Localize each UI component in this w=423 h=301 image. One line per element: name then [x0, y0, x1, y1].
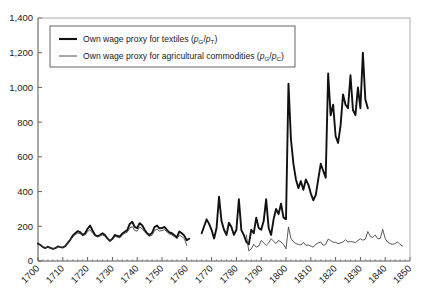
- y-tick-label: 400: [17, 186, 33, 197]
- y-tick-label: 200: [17, 221, 33, 232]
- y-tick-label: 800: [17, 117, 33, 128]
- chart-figure: 02004006008001,0001,2001,400 17001710172…: [0, 0, 423, 301]
- y-tick-label: 600: [17, 151, 33, 162]
- legend-label-textiles: Own wage proxy for textiles (pG/pT): [83, 34, 217, 45]
- y-tick-label: 1,400: [9, 12, 33, 23]
- chart-legend: Own wage proxy for textiles (pG/pT) Own …: [50, 26, 295, 67]
- y-tick-label: 1,200: [9, 47, 33, 58]
- line-chart: 02004006008001,0001,2001,400 17001710172…: [0, 0, 423, 301]
- y-tick-label: 1,000: [9, 82, 33, 93]
- legend-label-agricultural: Own wage proxy for agricultural commodit…: [83, 51, 284, 62]
